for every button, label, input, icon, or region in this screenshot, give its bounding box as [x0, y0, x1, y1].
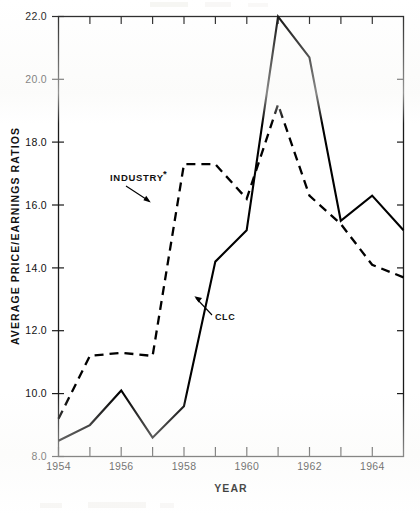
y-tick-label: 12.0: [25, 324, 47, 336]
y-axis-tick-labels: 8.0 10.0 12.0 14.0 16.0 18.0 20.0 22.0: [25, 10, 47, 462]
y-tick-label: 14.0: [25, 262, 47, 274]
x-axis-ticks: [59, 447, 373, 457]
x-tick-label: 1956: [109, 460, 134, 472]
x-tick-label: 1954: [46, 460, 71, 472]
chart-svg: 8.0 10.0 12.0 14.0 16.0 18.0 20.0 22.0 A…: [0, 0, 420, 516]
x-tick-label: 1964: [360, 460, 385, 472]
clc-label: CLC: [215, 312, 235, 322]
series-line-industry: [59, 105, 404, 419]
industry-arrowhead: [143, 196, 150, 203]
y-tick-label: 10.0: [25, 387, 47, 399]
industry-label: INDUSTRY: [110, 172, 164, 183]
y-tick-label: 18.0: [25, 136, 47, 148]
y-tick-label: 22.0: [25, 10, 47, 22]
annotation-clc: CLC: [194, 296, 235, 322]
x-axis-title: YEAR: [214, 482, 248, 494]
y-axis-title: AVERAGE PRICE/EARNINGS RATIOS: [9, 127, 21, 345]
x-tick-label: 1958: [172, 460, 197, 472]
y-tick-label: 20.0: [25, 73, 47, 85]
y-tick-label: 16.0: [25, 199, 47, 211]
x-axis-tick-labels: 1954 1956 1958 1960 1962 1964: [46, 460, 384, 472]
price-earnings-ratio-chart: 8.0 10.0 12.0 14.0 16.0 18.0 20.0 22.0 A…: [0, 0, 420, 516]
x-tick-label: 1960: [235, 460, 260, 472]
series-line-clc: [59, 17, 404, 441]
x-tick-label: 1962: [297, 460, 322, 472]
annotation-industry: INDUSTRY *: [110, 168, 167, 202]
y-tick-label: 8.0: [32, 450, 48, 462]
x-axis-ticks-top: [90, 17, 372, 25]
clc-arrowhead: [194, 296, 202, 302]
industry-asterisk: *: [163, 168, 167, 179]
